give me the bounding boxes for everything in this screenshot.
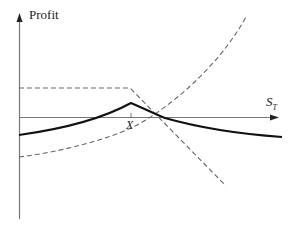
x-axis-arrow-icon: [270, 115, 279, 121]
series-convex-rising: [19, 17, 246, 157]
x-axis-label: ST: [266, 94, 277, 112]
strike-label: X: [126, 118, 133, 133]
y-axis-arrow-icon: [17, 13, 23, 22]
y-axis-label: Profit: [29, 7, 59, 23]
x-axis-label-sub: T: [273, 103, 277, 112]
series-combined: [19, 103, 282, 137]
chart-canvas: [0, 0, 294, 228]
profit-diagram: Profit ST X: [0, 0, 294, 228]
series-flat-falling: [19, 88, 226, 186]
